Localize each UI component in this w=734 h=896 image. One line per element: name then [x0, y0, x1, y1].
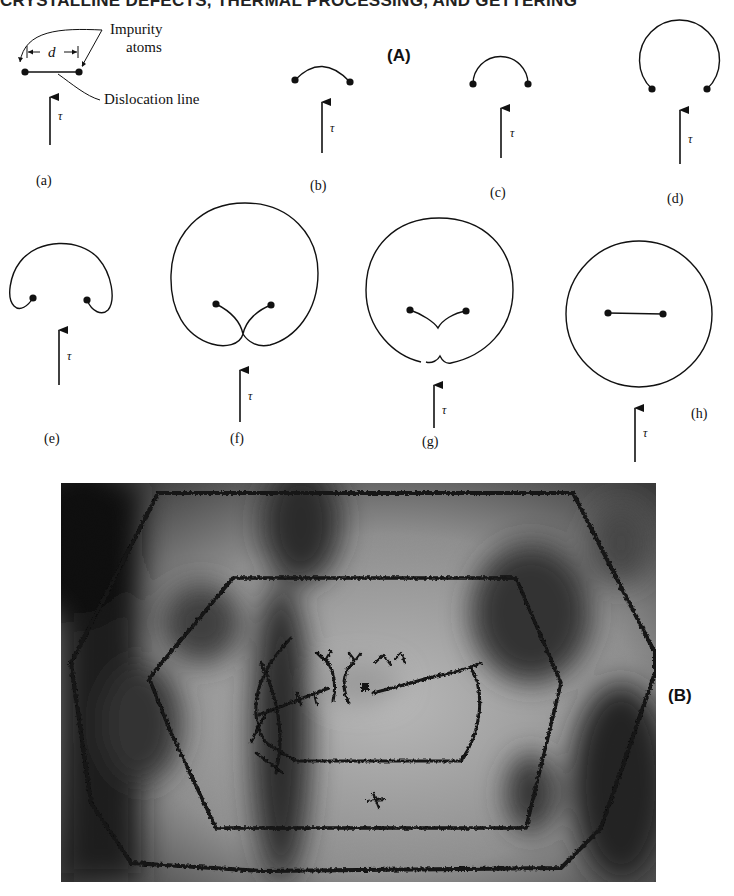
stage-f: τ (f) [171, 203, 318, 447]
stage-e-label: (e) [44, 431, 60, 447]
impurity-atom-icon [648, 85, 655, 92]
stress-tau-label: τ [248, 389, 253, 403]
stress-tau-label: τ [510, 126, 515, 140]
stage-b-label: (b) [310, 178, 327, 194]
stage-c-label: (c) [490, 185, 506, 201]
impurity-atom-icon [703, 85, 710, 92]
impurity-atom-icon [21, 68, 28, 75]
impurity-atom-icon [83, 296, 90, 303]
stage-h-label: (h) [691, 406, 708, 422]
stage-f-label: (f) [230, 431, 244, 447]
stress-tau-label: τ [330, 121, 335, 135]
stage-d-label: (d) [667, 191, 684, 207]
dislocation-line-label: Dislocation line [104, 91, 200, 107]
impurity-atom-icon [29, 294, 36, 301]
impurity-atom-icon [462, 307, 469, 314]
impurity-atom-icon [659, 310, 666, 317]
stage-a: d Impurity atoms Dislocation line τ (a) [18, 21, 200, 189]
stage-e: τ (e) [10, 243, 112, 447]
stress-tau-label: τ [58, 109, 63, 123]
stage-h: τ (h) [566, 241, 712, 462]
dislocation-loop-micrograph [61, 483, 656, 882]
panel-b-label: (B) [668, 686, 692, 706]
stage-b: τ (b) [291, 66, 353, 194]
stage-g: τ (g) [366, 218, 513, 450]
spacing-d-label: d [48, 44, 56, 60]
impurity-atom-icon [406, 306, 413, 313]
impurity-atom-icon [291, 76, 298, 83]
impurity-atoms-label-2: atoms [126, 39, 162, 55]
impurity-atom-icon [212, 300, 219, 307]
stage-c: τ (c) [469, 57, 531, 202]
stage-a-label: (a) [36, 173, 52, 189]
stage-d: τ (d) [640, 20, 720, 207]
impurity-atom-icon [346, 78, 353, 85]
impurity-atom-icon [75, 68, 82, 75]
impurity-atom-icon [524, 80, 531, 87]
stress-tau-label: τ [688, 132, 693, 146]
stage-g-label: (g) [422, 434, 439, 450]
impurity-atoms-label: Impurity [110, 21, 163, 37]
impurity-atom-icon [469, 80, 476, 87]
stress-tau-label: τ [643, 426, 648, 440]
frank-read-diagram: d Impurity atoms Dislocation line τ (a) … [0, 0, 734, 480]
impurity-atom-icon [604, 309, 611, 316]
impurity-atom-icon [267, 301, 274, 308]
stress-tau-label: τ [442, 403, 447, 417]
stress-tau-label: τ [67, 349, 72, 363]
